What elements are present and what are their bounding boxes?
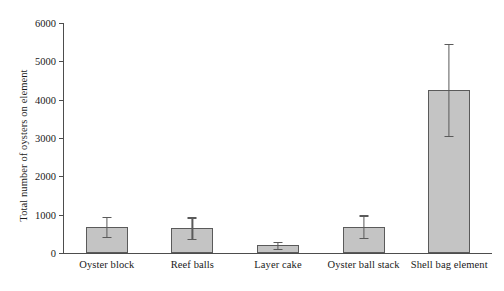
bar-group-1: Oyster block <box>64 23 150 253</box>
error-bar-cap-upper <box>445 44 454 45</box>
bar-group-2: Reef balls <box>150 23 236 253</box>
error-bar-line <box>192 217 193 238</box>
error-bar-line <box>449 44 450 136</box>
error-bar-cap-lower <box>273 249 282 250</box>
error-bar-cap-upper <box>102 217 111 218</box>
y-tick-label: 0 <box>16 248 56 259</box>
error-bar-cap-upper <box>188 217 197 218</box>
y-tick-label: 2000 <box>16 171 56 182</box>
y-tick-label: 5000 <box>16 56 56 67</box>
error-bar-cap-upper <box>273 242 282 243</box>
bar-group-4: Oyster ball stack <box>321 23 407 253</box>
x-tick-label: Shell bag element <box>411 259 488 270</box>
y-tick-label: 1000 <box>16 209 56 220</box>
x-tick-label: Oyster block <box>79 259 134 270</box>
y-tick-mark <box>59 253 64 254</box>
error-bar-line <box>363 215 364 237</box>
error-bar-cap-upper <box>359 215 368 216</box>
y-tick-label: 6000 <box>16 18 56 29</box>
chart-figure: Total number of oysters on element 01000… <box>0 0 504 291</box>
x-tick-label: Layer cake <box>254 259 301 270</box>
bar-group-5: Shell bag element <box>406 23 492 253</box>
error-bar-cap-lower <box>102 237 111 238</box>
x-tick-label: Reef balls <box>171 259 214 270</box>
y-tick-label: 4000 <box>16 94 56 105</box>
bar-group-3: Layer cake <box>235 23 321 253</box>
plot-area: 0100020003000400050006000 Oyster blockRe… <box>64 23 492 253</box>
error-bar-line <box>106 217 107 238</box>
error-bar-cap-lower <box>188 239 197 240</box>
error-bar-cap-lower <box>359 238 368 239</box>
x-tick-label: Oyster ball stack <box>327 259 399 270</box>
y-tick-label: 3000 <box>16 133 56 144</box>
x-axis-line <box>63 253 492 254</box>
error-bar-cap-lower <box>445 136 454 137</box>
